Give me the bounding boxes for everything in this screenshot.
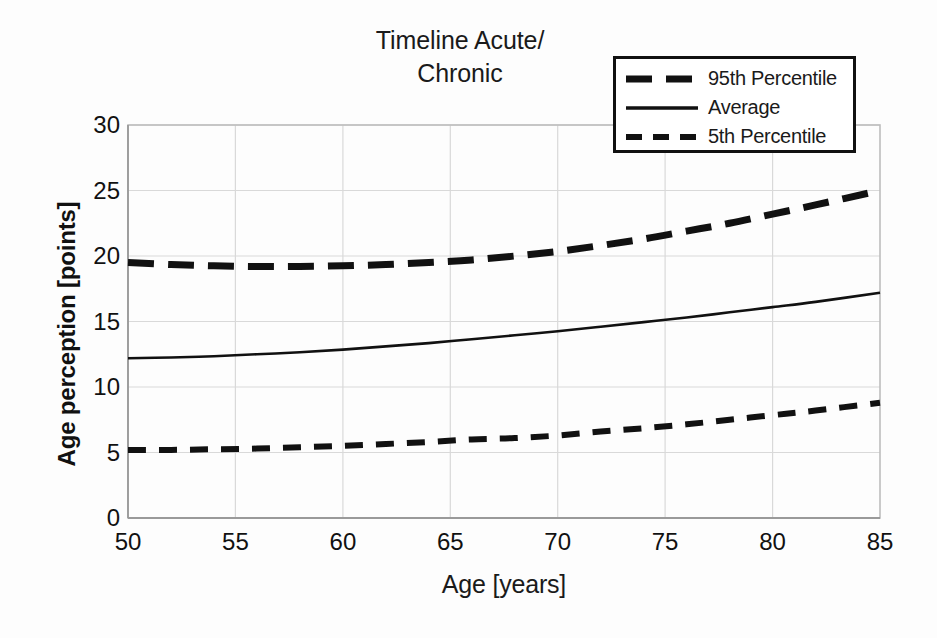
series-average xyxy=(128,293,880,359)
legend-label: Average xyxy=(708,96,780,119)
solid-line-icon xyxy=(626,101,698,115)
series-95th-percentile xyxy=(128,191,880,267)
legend-label: 95th Percentile xyxy=(708,67,837,90)
series-5th-percentile xyxy=(128,403,880,450)
legend-item-5th-percentile: 5th Percentile xyxy=(616,122,853,151)
dashed-thick-line-icon xyxy=(626,72,698,86)
dashed-medium-line-icon xyxy=(626,130,698,144)
legend-label: 5th Percentile xyxy=(708,125,826,148)
legend-item-95th-percentile: 95th Percentile xyxy=(616,64,853,93)
horizontal-gridlines xyxy=(128,125,880,453)
legend-item-average: Average xyxy=(616,93,853,122)
chart-figure: Timeline Acute/ Chronic Age perception [… xyxy=(0,0,937,638)
chart-legend: 95th Percentile Average 5th Percentile xyxy=(613,56,856,153)
